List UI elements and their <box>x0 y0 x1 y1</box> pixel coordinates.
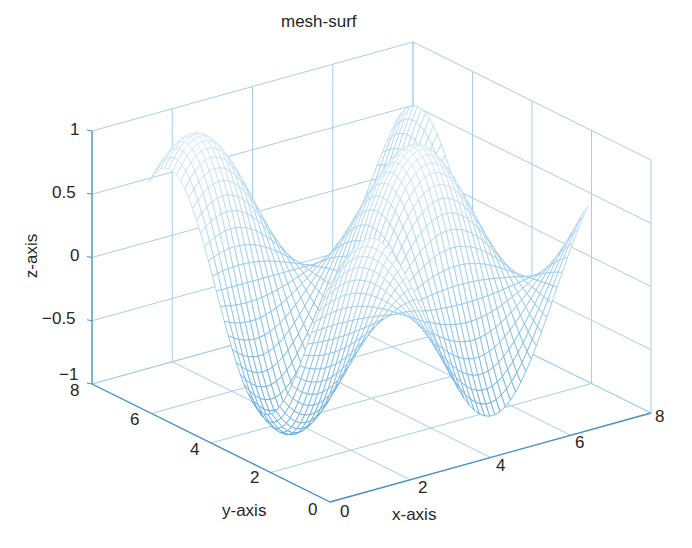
x-axis-line <box>330 413 651 502</box>
x-tick-0: 0 <box>340 502 349 522</box>
y-tick-8: 8 <box>70 381 79 401</box>
x-tick-2: 2 <box>418 478 427 498</box>
z-tick-neg0.5: −0.5 <box>42 309 76 329</box>
y-tick-4: 4 <box>190 440 199 460</box>
x-tick-4: 4 <box>496 456 505 476</box>
y-tick-0: 0 <box>308 500 317 520</box>
plot-area <box>0 0 692 548</box>
mesh-surface <box>149 106 588 435</box>
x-tick-6: 6 <box>575 433 584 453</box>
z-axis-label: z-axis <box>22 234 42 278</box>
x-axis-label: x-axis <box>392 505 436 525</box>
z-tick-0.5: 0.5 <box>52 183 76 203</box>
x-tick-8: 8 <box>655 407 664 427</box>
y-axis-label: y-axis <box>222 501 266 521</box>
y-tick-2: 2 <box>250 468 259 488</box>
y-tick-6: 6 <box>130 410 139 430</box>
chart-title: mesh-surf <box>281 12 357 32</box>
z-tick-0: 0 <box>70 246 79 266</box>
z-tick-1: 1 <box>70 120 79 140</box>
